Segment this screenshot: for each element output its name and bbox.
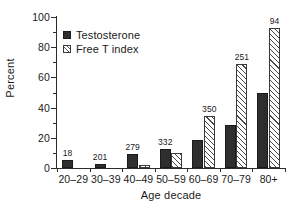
legend-item-testosterone: Testosterone: [63, 28, 140, 41]
x-tick-mark: [220, 168, 221, 172]
x-tick-mark: [57, 168, 58, 172]
y-tick-mark: [51, 168, 56, 169]
y-tick-label: 20: [8, 133, 50, 143]
y-tick-label: 60: [8, 72, 50, 82]
y-tick-label: 0: [8, 163, 50, 173]
solid-square-icon: [63, 31, 71, 39]
legend-label: Free T index: [76, 43, 139, 55]
y-tick-mark: [51, 77, 56, 78]
y-tick-mark-minor: [53, 32, 56, 33]
y-tick-label: 100: [8, 12, 50, 22]
chart-legend: Testosterone Free T index: [63, 28, 140, 56]
x-tick-mark: [187, 168, 188, 172]
y-tick-mark-minor: [53, 93, 56, 94]
y-tick-mark-minor: [53, 62, 56, 63]
x-tick-mark: [90, 168, 91, 172]
x-tick-label: 80+: [245, 173, 293, 185]
x-tick-mark: [122, 168, 123, 172]
bar-testosterone: [257, 93, 268, 168]
x-tick-mark: [155, 168, 156, 172]
y-tick-mark: [51, 108, 56, 109]
bar-chart-figure: Percent 020406080100 1820127933235025194…: [0, 0, 295, 211]
bar-count-label: 94: [260, 17, 288, 26]
y-tick-mark-minor: [53, 123, 56, 124]
y-tick-mark: [51, 17, 56, 18]
y-tick-mark: [51, 138, 56, 139]
legend-item-free-t-index: Free T index: [63, 42, 140, 55]
x-axis-title: Age decade: [57, 189, 285, 201]
x-tick-mark: [252, 168, 253, 172]
y-tick-label: 80: [8, 42, 50, 52]
hatched-square-icon: [63, 45, 71, 53]
y-tick-mark: [51, 47, 56, 48]
y-tick-label: 40: [8, 103, 50, 113]
bar-free-t-index: [269, 28, 280, 168]
legend-label: Testosterone: [76, 29, 140, 41]
x-tick-mark: [285, 168, 286, 172]
